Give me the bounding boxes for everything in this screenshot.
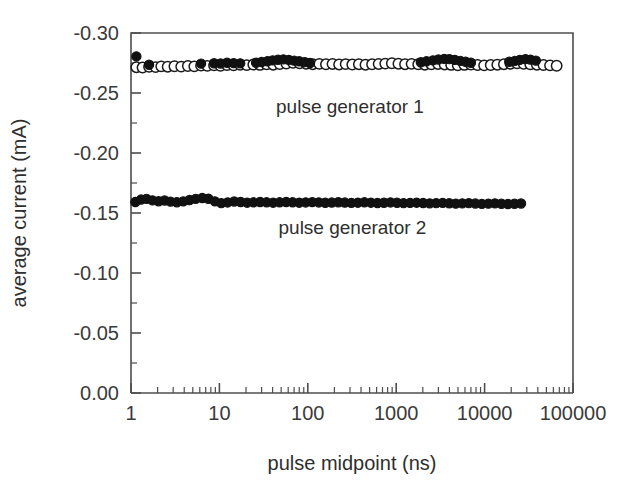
- data-point: [196, 59, 205, 68]
- annotation-pulse-generator-2: pulse generator 2: [279, 217, 427, 238]
- data-series-layer: [131, 52, 562, 209]
- series-pulse-generator-1: [131, 58, 562, 73]
- series-pulse-generator-2: [131, 193, 526, 208]
- annotation-pulse-generator-1: pulse generator 1: [276, 96, 424, 117]
- x-tick-label: 10000: [457, 402, 513, 424]
- y-tick-label: -0.10: [73, 262, 119, 284]
- data-point: [551, 61, 561, 71]
- y-tick-label: -0.15: [73, 202, 119, 224]
- plot-canvas: 110100100010000100000 -0.30-0.25-0.20-0.…: [0, 0, 639, 487]
- series-annotations: pulse generator 1pulse generator 2: [276, 96, 426, 238]
- x-axis-tick-labels: 110100100010000100000: [125, 402, 606, 424]
- data-point: [144, 60, 153, 69]
- y-axis-title: average current (mA): [8, 119, 30, 308]
- axis-frame: [131, 33, 573, 393]
- y-axis-tick-labels: -0.30-0.25-0.20-0.15-0.10-0.050.00: [73, 22, 119, 404]
- x-tick-label: 1000: [374, 402, 419, 424]
- data-point: [466, 58, 475, 67]
- data-point: [305, 58, 314, 67]
- y-tick-label: -0.25: [73, 82, 119, 104]
- x-axis-ticks: [131, 383, 573, 393]
- x-tick-label: 10: [208, 402, 230, 424]
- data-point: [531, 56, 540, 65]
- chart-figure: 110100100010000100000 -0.30-0.25-0.20-0.…: [0, 0, 639, 487]
- y-axis-ticks: [131, 33, 141, 393]
- data-point: [132, 52, 141, 61]
- data-point: [516, 199, 525, 208]
- y-tick-label: -0.05: [73, 322, 119, 344]
- data-point: [236, 59, 245, 68]
- y-tick-label: -0.20: [73, 142, 119, 164]
- x-axis-title: pulse midpoint (ns): [268, 452, 437, 474]
- y-tick-label: -0.30: [73, 22, 119, 44]
- y-tick-label: 0.00: [80, 382, 119, 404]
- x-tick-label: 100: [291, 402, 324, 424]
- x-tick-label: 1: [125, 402, 136, 424]
- x-tick-label: 100000: [540, 402, 607, 424]
